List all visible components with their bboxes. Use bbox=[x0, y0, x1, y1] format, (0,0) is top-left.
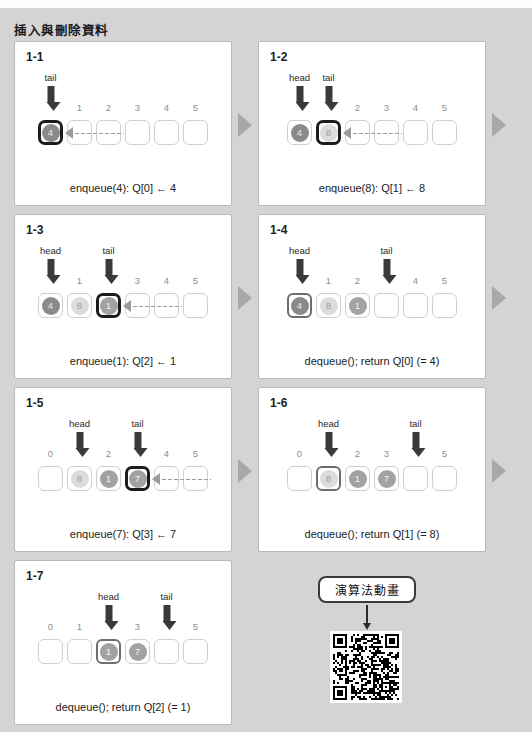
cell-row: 481 bbox=[287, 293, 457, 318]
cell-index-5: 5 bbox=[432, 448, 457, 459]
page-body: 插入與刪除資料 1-1tail0123454enqueue(4): Q[0] ←… bbox=[0, 8, 532, 732]
queue-cell-2[interactable]: 1 bbox=[96, 639, 121, 664]
cell-index-2: 2 bbox=[345, 275, 370, 286]
index-row: 012345 bbox=[38, 102, 208, 113]
queue-cell-5[interactable] bbox=[183, 466, 208, 491]
index-row: 012345 bbox=[38, 448, 208, 459]
step-number: 1-6 bbox=[270, 396, 287, 410]
pointer-label-tail: tail bbox=[102, 245, 114, 256]
queue-cell-3[interactable] bbox=[374, 293, 399, 318]
queue-cell-1[interactable]: 8 bbox=[316, 120, 341, 145]
cell-index-1: 1 bbox=[67, 102, 92, 113]
queue-cell-0[interactable]: 4 bbox=[287, 293, 312, 318]
cell-row: 817 bbox=[38, 466, 208, 491]
cell-row: 4 bbox=[38, 120, 208, 145]
queue-cell-1[interactable] bbox=[67, 639, 92, 664]
queue-cell-5[interactable] bbox=[432, 466, 457, 491]
queue-cell-2[interactable] bbox=[96, 120, 121, 145]
queue-cell-5[interactable] bbox=[183, 120, 208, 145]
index-row: 012345 bbox=[287, 448, 457, 459]
step-number: 1-1 bbox=[26, 50, 43, 64]
step-caption: dequeue(); return Q[0] (= 4) bbox=[259, 355, 485, 367]
cell-index-1: 1 bbox=[316, 275, 341, 286]
queue-cell-4[interactable] bbox=[154, 466, 179, 491]
queue-cell-0[interactable] bbox=[38, 466, 63, 491]
cell-index-1: 1 bbox=[67, 275, 92, 286]
step-number: 1-3 bbox=[26, 223, 43, 237]
cell-index-5: 5 bbox=[183, 102, 208, 113]
algorithm-animation-label: 演算法動畫 bbox=[318, 576, 416, 603]
queue-cell-3[interactable] bbox=[125, 293, 150, 318]
queue-diagram: headtail012345481 bbox=[15, 245, 231, 350]
cell-value-0: 4 bbox=[42, 297, 60, 315]
queue-cell-5[interactable] bbox=[432, 293, 457, 318]
cell-index-5: 5 bbox=[183, 448, 208, 459]
queue-cell-4[interactable] bbox=[154, 293, 179, 318]
queue-cell-4[interactable] bbox=[403, 120, 428, 145]
step-card-1-1: 1-1tail0123454enqueue(4): Q[0] ← 4 bbox=[14, 41, 232, 206]
cell-value-3: 7 bbox=[378, 470, 396, 488]
cell-value-2: 1 bbox=[349, 297, 367, 315]
pointer-label-tail: tail bbox=[380, 245, 392, 256]
cell-index-2: 2 bbox=[96, 102, 121, 113]
queue-cell-2[interactable]: 1 bbox=[345, 466, 370, 491]
queue-cell-3[interactable] bbox=[374, 120, 399, 145]
queue-cell-1[interactable]: 8 bbox=[67, 293, 92, 318]
cell-value-2: 1 bbox=[349, 470, 367, 488]
cell-value-3: 7 bbox=[129, 470, 147, 488]
cell-index-0: 0 bbox=[38, 448, 63, 459]
page-title: 插入與刪除資料 bbox=[14, 20, 109, 39]
cell-index-4: 4 bbox=[154, 102, 179, 113]
down-arrow-icon bbox=[363, 605, 371, 630]
queue-cell-2[interactable] bbox=[345, 120, 370, 145]
queue-cell-0[interactable]: 4 bbox=[287, 120, 312, 145]
cell-index-2: 2 bbox=[96, 448, 121, 459]
queue-diagram: tail0123454 bbox=[15, 72, 231, 177]
queue-cell-1[interactable] bbox=[67, 120, 92, 145]
queue-cell-4[interactable] bbox=[154, 639, 179, 664]
algorithm-animation-block[interactable]: 演算法動畫 bbox=[318, 576, 416, 708]
queue-cell-1[interactable]: 8 bbox=[316, 293, 341, 318]
step-card-1-7: 1-7headtail01234517dequeue(); return Q[2… bbox=[14, 560, 232, 725]
pointer-label-tail: tail bbox=[44, 72, 56, 83]
cell-index-4: 4 bbox=[154, 448, 179, 459]
cell-value-0: 4 bbox=[291, 297, 309, 315]
queue-cell-2[interactable]: 1 bbox=[96, 293, 121, 318]
queue-cell-5[interactable] bbox=[183, 293, 208, 318]
queue-cell-5[interactable] bbox=[183, 639, 208, 664]
queue-cell-2[interactable]: 1 bbox=[345, 293, 370, 318]
cell-index-3: 3 bbox=[374, 448, 399, 459]
cell-index-4: 4 bbox=[154, 275, 179, 286]
queue-cell-5[interactable] bbox=[432, 120, 457, 145]
queue-cell-2[interactable]: 1 bbox=[96, 466, 121, 491]
queue-cell-4[interactable] bbox=[154, 120, 179, 145]
cell-index-1: 1 bbox=[67, 621, 92, 632]
cell-value-2: 1 bbox=[100, 470, 118, 488]
queue-cell-0[interactable]: 4 bbox=[38, 120, 63, 145]
queue-cell-3[interactable] bbox=[125, 120, 150, 145]
qr-code-icon[interactable] bbox=[330, 631, 402, 703]
index-row: 012345 bbox=[287, 275, 457, 286]
queue-cell-3[interactable]: 7 bbox=[125, 639, 150, 664]
queue-cell-0[interactable] bbox=[38, 639, 63, 664]
cell-index-0: 0 bbox=[287, 448, 312, 459]
step-next-triangle-icon-6 bbox=[492, 459, 506, 483]
queue-cell-1[interactable]: 8 bbox=[316, 466, 341, 491]
cell-row: 48 bbox=[287, 120, 457, 145]
queue-cell-0[interactable] bbox=[287, 466, 312, 491]
cell-row: 481 bbox=[38, 293, 208, 318]
cell-value-3: 7 bbox=[129, 643, 147, 661]
queue-cell-4[interactable] bbox=[403, 293, 428, 318]
step-caption: enqueue(4): Q[0] ← 4 bbox=[15, 182, 231, 194]
queue-cell-4[interactable] bbox=[403, 466, 428, 491]
pointer-label-tail: tail bbox=[409, 418, 421, 429]
queue-cell-0[interactable]: 4 bbox=[38, 293, 63, 318]
step-card-1-4: 1-4headtail012345481dequeue(); return Q[… bbox=[258, 214, 486, 379]
step-number: 1-2 bbox=[270, 50, 287, 64]
queue-cell-1[interactable]: 8 bbox=[67, 466, 92, 491]
cell-index-5: 5 bbox=[432, 275, 457, 286]
pointer-label-head: head bbox=[289, 72, 310, 83]
queue-cell-3[interactable]: 7 bbox=[125, 466, 150, 491]
index-row: 012345 bbox=[38, 621, 208, 632]
queue-cell-3[interactable]: 7 bbox=[374, 466, 399, 491]
